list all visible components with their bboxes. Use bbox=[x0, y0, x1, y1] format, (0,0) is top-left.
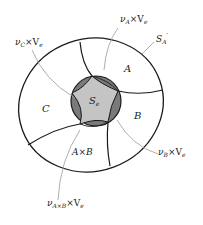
divider-c-a bbox=[80, 42, 92, 76]
label-region-c: C bbox=[42, 104, 50, 114]
divider-a-b bbox=[118, 90, 163, 93]
sa-prime: ′ bbox=[167, 32, 169, 40]
times-v: ×V bbox=[66, 198, 80, 208]
nu-sub: A×B bbox=[52, 202, 66, 209]
leader-sa bbox=[142, 42, 154, 54]
label-se-main: S bbox=[89, 95, 96, 106]
times-v: ×V bbox=[168, 147, 182, 157]
divider-b-axb bbox=[107, 122, 110, 166]
label-se: Se bbox=[89, 96, 99, 107]
v-sub: e bbox=[144, 18, 148, 25]
divider-axb-c bbox=[28, 124, 80, 145]
times-v: ×V bbox=[130, 14, 144, 24]
label-region-b: B bbox=[134, 111, 141, 121]
annotation-sa-prime: SA′ bbox=[156, 33, 168, 45]
diagram-canvas: Se A B C A×B νC×Ve νA×Ve SA′ νB×Ve νA×B×… bbox=[0, 0, 203, 225]
diagram-graphic bbox=[0, 0, 203, 225]
leader-nu-axb bbox=[58, 130, 80, 200]
label-region-axb: A×B bbox=[72, 148, 93, 157]
annotation-nu-c: νC×Ve bbox=[15, 38, 43, 48]
label-se-sub: e bbox=[96, 100, 100, 107]
v-sub: e bbox=[39, 41, 43, 48]
times-v: ×V bbox=[25, 37, 39, 47]
label-region-a: A bbox=[124, 64, 131, 74]
annotation-nu-a: νA×Ve bbox=[120, 15, 147, 25]
leader-nu-a bbox=[104, 28, 118, 70]
leader-nu-c bbox=[32, 50, 75, 98]
annotation-nu-axb: νA×B×Ve bbox=[47, 199, 84, 209]
v-sub: e bbox=[80, 202, 84, 209]
v-sub: e bbox=[182, 151, 186, 158]
annotation-nu-b: νB×Ve bbox=[158, 148, 186, 158]
